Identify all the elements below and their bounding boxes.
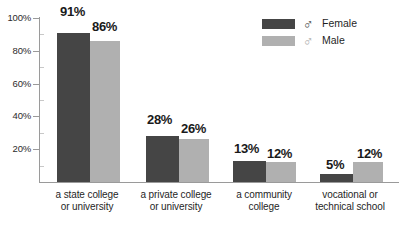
data-label-female-group-3: 13% xyxy=(234,142,259,155)
legend-item-female: ♂ Female xyxy=(262,15,357,32)
x-axis-line xyxy=(39,182,399,183)
legend-swatch-male xyxy=(262,36,295,46)
mars-symbol-icon: ♂ xyxy=(300,34,316,48)
legend-item-male: ♂ Male xyxy=(262,32,357,49)
data-label-male-group-4: 12% xyxy=(357,147,382,160)
x-axis-label-group-4-line1: vocational or xyxy=(296,189,404,201)
bar-female-group-4 xyxy=(320,174,353,182)
bar-male-group-2 xyxy=(179,139,209,182)
data-label-male-group-2: 26% xyxy=(181,122,206,135)
x-axis-label-group-4-line2: technical school xyxy=(296,201,404,213)
data-label-female-group-2: 28% xyxy=(147,113,172,126)
bar-chart: 100% 80% 60% 40% 20% 91% 86% 28% 26% 13%… xyxy=(0,0,406,226)
bar-female-group-2 xyxy=(146,136,179,182)
legend-label-female: Female xyxy=(322,18,357,29)
data-label-male-group-3: 12% xyxy=(267,147,292,160)
y-axis-label-60: 60% xyxy=(0,79,31,89)
data-label-female-group-1: 91% xyxy=(60,5,85,18)
legend: ♂ Female ♂ Male xyxy=(262,15,357,49)
bar-male-group-4 xyxy=(353,162,383,182)
x-axis-label-group-4: vocational or technical school xyxy=(296,189,404,213)
y-axis-label-40: 40% xyxy=(0,111,31,121)
legend-label-male: Male xyxy=(322,35,345,46)
mars-symbol-icon: ♂ xyxy=(300,17,316,31)
y-axis-label-100: 100% xyxy=(0,13,31,23)
data-label-male-group-1: 86% xyxy=(92,20,117,33)
y-axis-label-80: 80% xyxy=(0,46,31,56)
y-axis-label-20: 20% xyxy=(0,144,31,154)
data-label-female-group-4: 5% xyxy=(326,158,344,171)
bar-female-group-1 xyxy=(57,33,90,182)
bar-male-group-1 xyxy=(90,41,120,182)
legend-swatch-female xyxy=(262,19,295,29)
bar-male-group-3 xyxy=(266,162,296,182)
bar-female-group-3 xyxy=(233,161,266,182)
